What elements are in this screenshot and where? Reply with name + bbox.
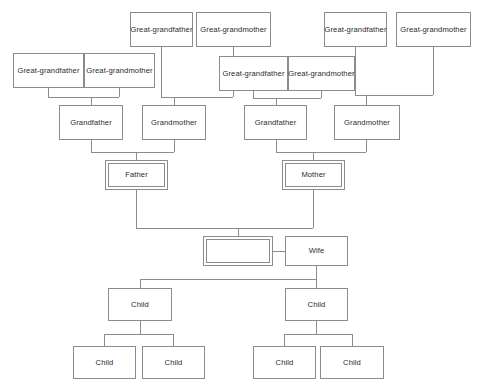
node-label-ggf-3: Great-grandfather [222, 70, 284, 78]
node-ggf-4[interactable]: Great-grandfather [324, 12, 387, 47]
node-ggm-4[interactable]: Great-grandmother [396, 12, 471, 47]
node-label-gc-3: Child [276, 359, 294, 367]
node-label-child-1: Child [131, 301, 149, 309]
node-label-gc-4: Child [343, 359, 361, 367]
node-label-ggf-2: Great-grandfather [130, 26, 192, 34]
node-label-gf-1: Grandfather [70, 119, 112, 127]
node-child-2[interactable]: Child [285, 288, 348, 321]
node-label-ggm-1: Great-grandmother [86, 67, 152, 75]
node-gf-1[interactable]: Grandfather [59, 105, 123, 140]
node-self[interactable] [203, 236, 273, 266]
node-inner-border-father: Father [108, 163, 165, 187]
node-gc-1[interactable]: Child [73, 346, 136, 379]
node-label-gc-1: Child [96, 359, 114, 367]
node-gc-3[interactable]: Child [253, 346, 316, 379]
node-label-wife: Wife [309, 247, 325, 255]
node-gf-2[interactable]: Grandfather [244, 105, 307, 140]
node-inner-border-mother: Mother [285, 163, 342, 187]
node-father[interactable]: Father [105, 160, 168, 190]
node-gc-4[interactable]: Child [320, 346, 384, 379]
node-ggf-2[interactable]: Great-grandfather [130, 12, 193, 47]
node-ggf-1[interactable]: Great-grandfather [13, 53, 84, 88]
node-gc-2[interactable]: Child [142, 346, 205, 379]
node-ggm-2[interactable]: Great-grandmother [196, 12, 271, 47]
node-ggf-3[interactable]: Great-grandfather [219, 56, 288, 91]
node-ggm-3[interactable]: Great-grandmother [288, 56, 355, 91]
node-gm-2[interactable]: Grandmother [334, 105, 400, 140]
node-label-ggf-1: Great-grandfather [17, 67, 79, 75]
node-mother[interactable]: Mother [282, 160, 345, 190]
node-label-ggm-2: Great-grandmother [200, 26, 266, 34]
node-label-child-2: Child [308, 301, 326, 309]
node-label-ggm-4: Great-grandmother [400, 26, 466, 34]
node-ggm-1[interactable]: Great-grandmother [84, 53, 155, 88]
node-label-ggf-4: Great-grandfather [324, 26, 386, 34]
node-wife[interactable]: Wife [285, 236, 348, 266]
node-label-gm-1: Grandmother [151, 119, 197, 127]
node-label-gc-2: Child [165, 359, 183, 367]
node-label-ggm-3: Great-grandmother [288, 70, 354, 78]
node-label-gf-2: Grandfather [255, 119, 297, 127]
node-label-gm-2: Grandmother [344, 119, 390, 127]
node-label-mother: Mother [301, 171, 325, 179]
node-gm-1[interactable]: Grandmother [142, 105, 206, 140]
family-tree-diagram: Great-grandfatherGreat-grandmotherGreat-… [0, 0, 478, 391]
node-inner-border-self [206, 239, 270, 263]
node-label-father: Father [125, 171, 148, 179]
node-child-1[interactable]: Child [108, 288, 172, 321]
